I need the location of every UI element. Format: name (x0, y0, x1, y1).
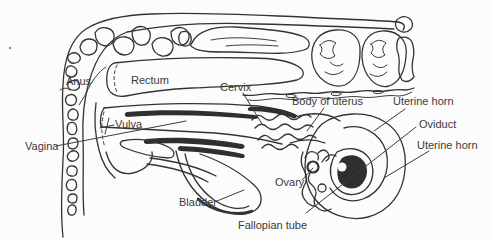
label-vulva: Vulva (115, 118, 143, 130)
label-body-of-uterus: Body of uterus (292, 95, 363, 107)
rectum-shape (60, 58, 303, 105)
label-fallopian-tube: Fallopian tube (238, 219, 307, 231)
labels: Anus Rectum Cervix Body of uterus Uterin… (25, 74, 478, 231)
leader-lines (56, 93, 429, 213)
label-bladder: Bladder (179, 196, 217, 208)
cervix-shape (252, 114, 316, 150)
label-uterine-horn-lower: Uterine horn (417, 139, 478, 151)
label-anus: Anus (66, 75, 92, 87)
label-uterine-horn-upper: Uterine horn (393, 95, 454, 107)
label-rectum: Rectum (131, 74, 169, 86)
label-oviduct: Oviduct (419, 118, 456, 130)
label-vagina: Vagina (25, 140, 59, 152)
ovary-oviduct-shape (301, 150, 336, 211)
label-ovary: Ovary (275, 176, 305, 188)
anatomy-figure: Anus Rectum Cervix Body of uterus Uterin… (0, 0, 490, 240)
scan-speck (9, 47, 11, 49)
anatomy-diagram: Anus Rectum Cervix Body of uterus Uterin… (0, 0, 490, 240)
label-cervix: Cervix (220, 81, 252, 93)
